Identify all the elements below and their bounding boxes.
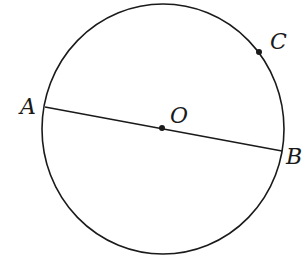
point-c-dot [256, 49, 262, 55]
label-o: O [170, 105, 188, 127]
point-o-dot [159, 125, 165, 131]
label-c: C [270, 31, 287, 53]
label-a: A [20, 96, 36, 118]
label-b: B [286, 146, 302, 168]
circle-diagram [0, 0, 308, 262]
